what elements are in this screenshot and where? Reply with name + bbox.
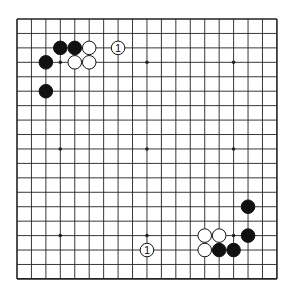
black-stone[interactable] [212,243,226,257]
star-point [232,234,236,238]
go-board[interactable]: 11 [0,0,290,298]
black-stone[interactable] [54,41,68,55]
black-stone[interactable] [39,56,53,70]
move-number: 1 [115,42,121,54]
star-point [232,61,236,65]
white-stone[interactable] [198,243,212,257]
white-stone[interactable] [68,56,82,70]
white-stone[interactable] [212,229,226,243]
star-point [59,234,63,238]
star-point [145,147,149,151]
star-point [232,147,236,151]
white-stone[interactable] [82,56,96,70]
black-stone[interactable] [68,41,82,55]
star-point [59,61,63,65]
black-stone[interactable] [227,243,241,257]
star-point [145,61,149,65]
white-stone[interactable] [198,229,212,243]
black-stone[interactable] [39,84,53,98]
star-point [145,234,149,238]
white-stone[interactable] [82,41,96,55]
black-stone[interactable] [241,229,255,243]
move-number: 1 [144,244,150,256]
star-point [59,147,63,151]
black-stone[interactable] [241,200,255,214]
